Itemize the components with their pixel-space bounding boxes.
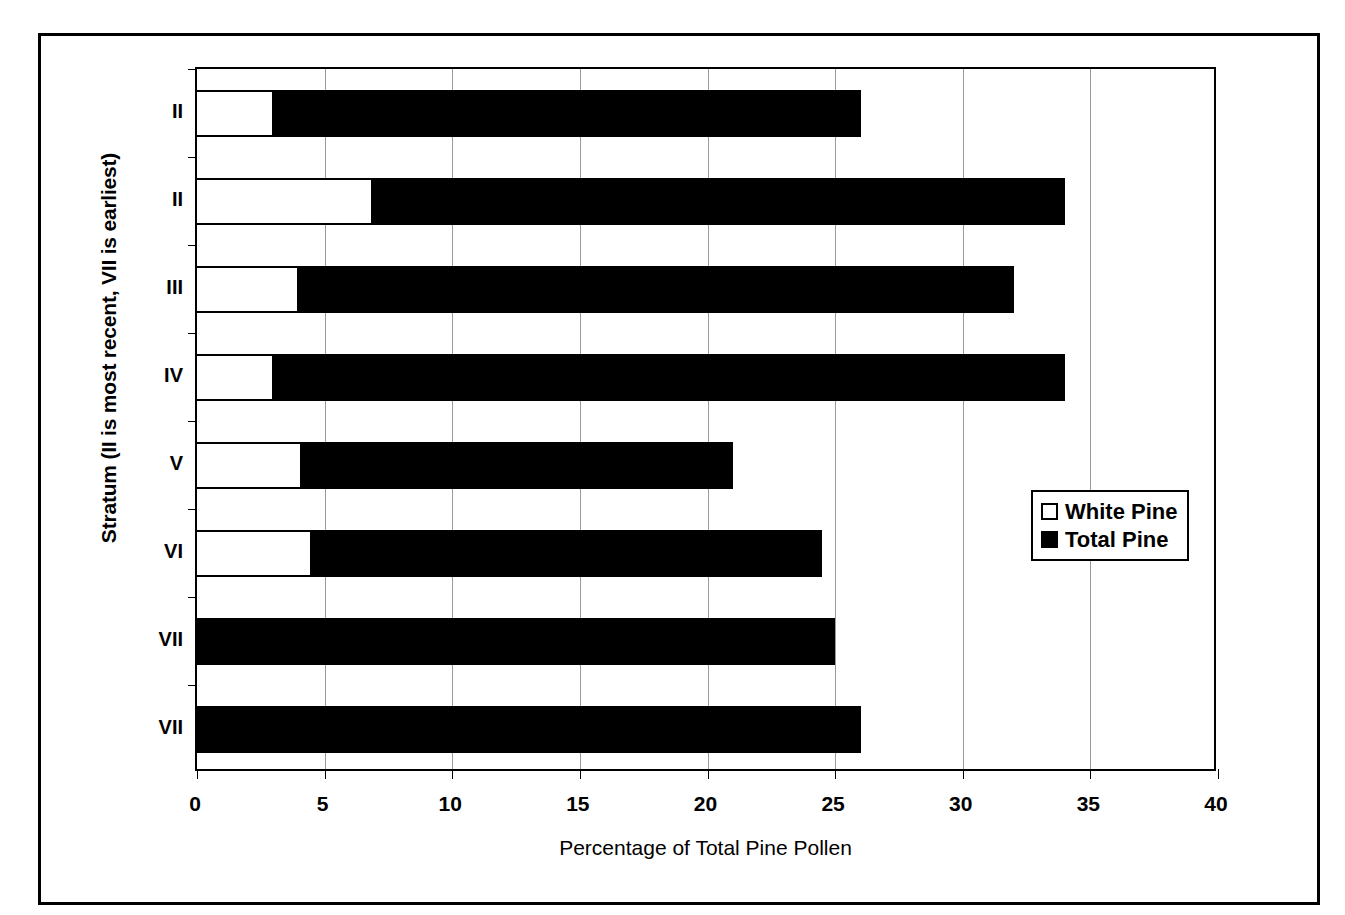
x-tick [452, 769, 453, 779]
y-tick-label: IV [93, 364, 183, 387]
x-tick [325, 769, 326, 779]
y-tick [188, 685, 197, 686]
y-tick [188, 509, 197, 510]
y-tick-label: VII [93, 716, 183, 739]
x-tick [1218, 769, 1219, 779]
white-square-icon [1041, 503, 1058, 520]
y-tick [188, 333, 197, 334]
x-tick [580, 769, 581, 779]
x-tick [197, 769, 198, 779]
x-axis-tick-labels: 0510152025303540 [195, 792, 1216, 822]
y-tick [188, 69, 197, 70]
x-axis-title: Percentage of Total Pine Pollen [195, 836, 1216, 860]
chart-legend: White Pine Total Pine [1031, 490, 1189, 561]
x-tick-label: 20 [676, 792, 736, 816]
figure-frame: Stratum (II is most recent, VII is earli… [38, 33, 1320, 905]
y-tick [188, 157, 197, 158]
x-tick-label: 10 [420, 792, 480, 816]
x-axis-ticks [197, 769, 1214, 779]
y-tick-label: VII [93, 628, 183, 651]
x-tick-label: 25 [803, 792, 863, 816]
y-tick-label: II [93, 100, 183, 123]
y-tick-label: II [93, 188, 183, 211]
x-tick [963, 769, 964, 779]
y-tick-label: VI [93, 540, 183, 563]
legend-entry-total-pine: Total Pine [1041, 526, 1177, 554]
plot-area [195, 67, 1216, 771]
x-tick-label: 30 [931, 792, 991, 816]
y-tick-label: V [93, 452, 183, 475]
x-tick [708, 769, 709, 779]
x-tick-label: 35 [1058, 792, 1118, 816]
black-square-icon [1041, 531, 1058, 548]
y-tick [188, 597, 197, 598]
y-axis-ticks [197, 69, 1214, 769]
legend-label-white-pine: White Pine [1065, 498, 1177, 526]
y-tick [188, 245, 197, 246]
y-axis-title: Stratum (II is most recent, VII is earli… [97, 88, 121, 608]
x-tick-label: 5 [293, 792, 353, 816]
y-tick-label: III [93, 276, 183, 299]
legend-label-total-pine: Total Pine [1065, 526, 1169, 554]
x-tick-label: 15 [548, 792, 608, 816]
legend-entry-white-pine: White Pine [1041, 498, 1177, 526]
x-tick-label: 0 [165, 792, 225, 816]
y-tick [188, 421, 197, 422]
x-tick [835, 769, 836, 779]
x-tick-label: 40 [1186, 792, 1246, 816]
x-tick [1090, 769, 1091, 779]
